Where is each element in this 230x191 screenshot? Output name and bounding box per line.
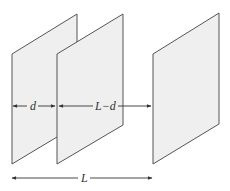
l-label: L [80, 171, 88, 185]
l-minus-d-label: L−d [94, 99, 117, 113]
parallel-plates-diagram: d L−d L [0, 0, 230, 191]
d-label: d [30, 99, 37, 113]
plate-3 [153, 13, 219, 164]
